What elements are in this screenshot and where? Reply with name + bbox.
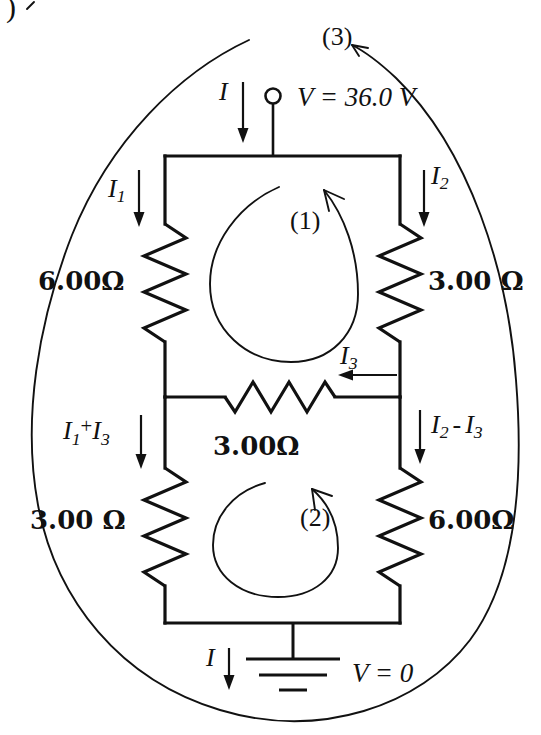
resistor-label-left-upper: 6.00Ω [38,268,124,295]
resistor-value-left-upper: 6.00Ω [38,266,124,296]
current-symbol-i2: I [431,161,440,190]
resistor-label-right-upper: 3.00 Ω [428,268,524,295]
loop-3-label: (3) [322,24,352,50]
current-arrow-left-top [134,170,145,227]
current-label-right-bottom: I2-I3 [431,412,483,442]
current-symbol-i3: I [340,341,349,370]
current-subscript-i3-b: 3 [101,429,110,449]
current-subscript-i1-b: 1 [72,429,81,449]
current-subscript-i3: 3 [349,353,358,373]
cropped-glyph-mark [27,2,34,9]
resistor-label-middle: 3.00Ω [213,433,299,460]
current-operator-plus: + [81,414,93,437]
loop-1-arrow-path [210,187,358,362]
current-symbol-i2-b: I [431,410,440,439]
loop-1-label: (1) [290,208,320,234]
cropped-label-fragment: ) [6,0,16,22]
resistor-value-right-lower: 6.00Ω [428,505,514,535]
resistor-value-left-lower: 3.00 Ω [30,505,126,535]
circuit-svg [0,0,541,735]
loop-3-boundary-path [32,40,519,721]
resistor-label-left-lower: 3.00 Ω [30,507,126,534]
current-operator-minus: - [449,410,466,439]
resistor-label-right-lower: 6.00Ω [428,507,514,534]
loop-2-label: (2) [300,505,330,531]
resistor-left-lower [144,468,186,586]
ground-voltage-text: V = 0 [352,658,413,688]
current-arrow-right-top [419,170,430,227]
current-subscript-i1: 1 [117,186,126,206]
current-symbol-i1: I [108,174,117,203]
current-subscript-i3-c: 3 [474,422,483,442]
current-symbol-i3-b: I [92,416,101,445]
current-subscript-i2-b: 2 [440,422,449,442]
current-label-middle: I3 [340,343,358,373]
current-label-top-total: I [219,79,228,105]
current-arrow-right-bottom [415,410,426,464]
current-label-right-top: I2 [431,163,449,193]
resistor-right-lower [379,468,421,586]
current-arrow-left-bottom [136,415,147,469]
current-label-left-top: I1 [108,176,126,206]
resistor-value-middle: 3.00Ω [213,431,299,461]
ground-voltage-label: V = 0 [352,660,413,687]
resistor-middle [225,382,335,412]
current-symbol-i3-c: I [465,410,474,439]
current-label-left-bottom: I1+I3 [63,416,110,448]
current-symbol-bottom: I [206,643,215,672]
source-voltage-text: V = 36.0 V [297,82,415,112]
current-arrow-bottom-total [224,648,235,690]
source-voltage-label: V = 36.0 V [297,84,415,111]
resistor-value-right-upper: 3.00 Ω [428,266,524,296]
current-label-bottom-total: I [206,645,215,671]
current-subscript-i2: 2 [440,173,449,193]
circuit-diagram-figure: ) (3) I V = 36.0 V I1 I2 6.00Ω 3.00 Ω I3… [0,0,541,735]
resistor-right-upper [379,224,421,342]
loop-2-arrow-path [213,483,338,597]
current-symbol-top: I [219,77,228,106]
source-terminal-node [266,89,281,104]
resistor-left-upper [144,224,186,342]
current-arrow-top-total [238,82,249,143]
current-symbol-i1-b: I [63,416,72,445]
